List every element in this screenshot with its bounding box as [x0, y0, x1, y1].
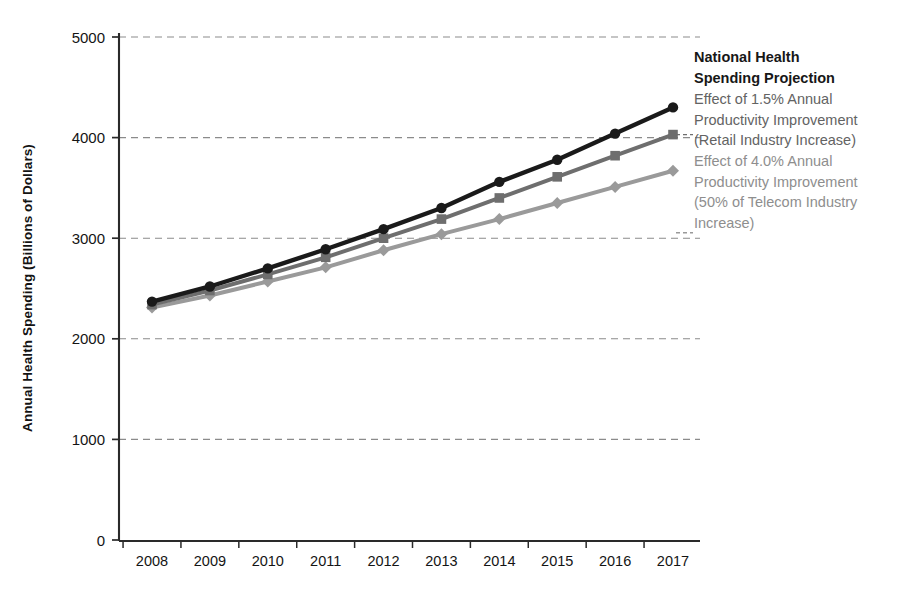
chart-legend: National HealthSpending ProjectionEffect… [676, 49, 858, 233]
x-tick-label: 2014 [483, 553, 515, 569]
y-tick-label: 5000 [72, 29, 105, 46]
data-point-circle [436, 203, 446, 213]
y-tick-label: 3000 [72, 230, 105, 247]
y-tick-label: 4000 [72, 129, 105, 146]
data-point-circle [147, 296, 157, 306]
data-point-square [379, 233, 389, 243]
line-chart: 010002000300040005000 200820092010201120… [0, 0, 902, 595]
y-tick-label: 0 [97, 532, 105, 549]
x-tick-label: 2010 [252, 553, 284, 569]
data-point-circle [378, 224, 388, 234]
data-point-circle [552, 155, 562, 165]
x-tick-label: 2016 [599, 553, 631, 569]
chart-background [0, 0, 902, 595]
data-point-circle [205, 281, 215, 291]
legend-label-line: National Health [694, 49, 800, 65]
x-tick-label: 2015 [541, 553, 573, 569]
legend-label-line: Effect of 4.0% Annual [694, 153, 832, 169]
legend-label-line: (Retail Industry Increase) [694, 132, 856, 148]
y-axis-title: Annual Health Spending (Billions of Doll… [20, 144, 35, 432]
x-tick-label: 2013 [425, 553, 457, 569]
x-tick-label: 2011 [310, 553, 341, 569]
legend-label-line: Effect of 1.5% Annual [694, 91, 832, 107]
legend-label-line: Productivity Improvement [694, 112, 858, 128]
data-point-square [437, 214, 447, 224]
data-point-square [495, 193, 505, 203]
legend-label-line: Increase) [694, 215, 754, 231]
data-point-circle [668, 102, 678, 112]
data-point-circle [263, 263, 273, 273]
x-tick-label: 2009 [194, 553, 226, 569]
legend-label-line: Productivity Improvement [694, 174, 858, 190]
data-point-square [552, 172, 562, 182]
x-tick-label: 2012 [367, 553, 399, 569]
x-tick-label: 2008 [136, 553, 168, 569]
x-tick-label: 2017 [657, 553, 689, 569]
data-point-circle [320, 244, 330, 254]
data-point-square [610, 151, 620, 161]
y-tick-label: 2000 [72, 330, 105, 347]
y-tick-label: 1000 [72, 431, 105, 448]
data-point-circle [610, 128, 620, 138]
legend-label-line: Spending Projection [694, 70, 835, 86]
legend-label-line: (50% of Telecom Industry [694, 194, 858, 210]
data-point-circle [494, 177, 504, 187]
chart-figure: 010002000300040005000 200820092010201120… [0, 0, 902, 595]
